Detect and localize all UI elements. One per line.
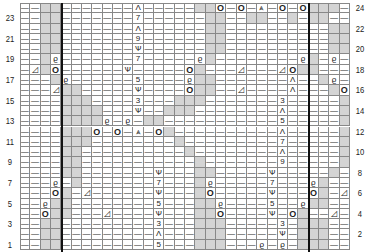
purl-symbol: —: [154, 3, 164, 13]
purl-symbol: —: [309, 147, 319, 157]
no-stitch-cell: [309, 219, 319, 229]
purl-symbol: —: [185, 188, 195, 198]
purl-symbol: —: [113, 157, 123, 167]
no-stitch-cell: [206, 24, 216, 34]
purl-symbol: —: [175, 240, 185, 250]
purl-symbol: —: [195, 127, 205, 137]
psso-symbol: Ѱ: [133, 85, 143, 95]
purl-symbol: —: [247, 75, 257, 85]
purl-symbol: —: [237, 219, 247, 229]
no-stitch-cell: [51, 199, 61, 209]
row-number-right: 6: [353, 188, 367, 198]
purl-symbol: —: [237, 54, 247, 64]
psso-symbol: Ѱ: [268, 188, 278, 198]
purl-symbol: —: [329, 157, 339, 167]
psso-symbol: Ѱ: [154, 209, 164, 219]
purl-symbol: —: [288, 240, 298, 250]
no-stitch-cell: [51, 3, 61, 13]
purl-symbol: —: [92, 178, 102, 188]
purl-symbol: —: [237, 147, 247, 157]
purl-symbol: —: [185, 178, 195, 188]
purl-symbol: —: [278, 209, 288, 219]
purl-symbol: —: [288, 229, 298, 239]
twisted-stitch-symbol: ϱ: [206, 178, 216, 188]
row-number-left: 15: [3, 96, 17, 106]
purl-symbol: —: [103, 137, 113, 147]
purl-symbol: —: [257, 219, 267, 229]
purl-symbol: —: [41, 75, 51, 85]
purl-symbol: —: [226, 24, 236, 34]
purl-symbol: —: [309, 85, 319, 95]
purl-symbol: —: [113, 44, 123, 54]
purl-symbol: —: [133, 199, 143, 209]
increase-symbol: Λ: [133, 24, 143, 34]
purl-symbol: —: [319, 137, 329, 147]
no-stitch-cell: [175, 96, 185, 106]
purl-symbol: —: [144, 13, 154, 23]
purl-symbol: —: [216, 157, 226, 167]
purl-symbol: —: [133, 240, 143, 250]
row-number-left: 23: [3, 13, 17, 23]
yarn-over-symbol: O: [206, 188, 216, 198]
no-stitch-cell: [51, 240, 61, 250]
purl-symbol: —: [123, 240, 133, 250]
purl-symbol: —: [340, 3, 350, 13]
purl-symbol: —: [247, 178, 257, 188]
purl-symbol: —: [103, 96, 113, 106]
purl-symbol: —: [92, 85, 102, 95]
row-number-right: 2: [353, 229, 367, 239]
purl-symbol: —: [288, 116, 298, 126]
purl-symbol: —: [175, 209, 185, 219]
purl-symbol: —: [72, 13, 82, 23]
row-number-right: 8: [353, 168, 367, 178]
purl-symbol: —: [340, 240, 350, 250]
no-stitch-cell: [329, 44, 339, 54]
purl-symbol: —: [41, 127, 51, 137]
psso-symbol: Ѱ: [268, 168, 278, 178]
purl-symbol: —: [144, 54, 154, 64]
purl-symbol: —: [278, 75, 288, 85]
purl-symbol: —: [30, 127, 40, 137]
purl-symbol: —: [206, 147, 216, 157]
purl-symbol: —: [268, 157, 278, 167]
yarn-over-symbol: O: [309, 188, 319, 198]
no-stitch-cell: [195, 157, 205, 167]
psso-symbol: Ѱ: [154, 188, 164, 198]
knitting-chart-grid: —————————Λ—————O—O—⩓—O—O——————————7—————…: [20, 3, 350, 250]
purl-symbol: —: [164, 229, 174, 239]
purl-symbol: —: [216, 137, 226, 147]
purl-symbol: —: [164, 240, 174, 250]
purl-symbol: —: [144, 178, 154, 188]
purl-symbol: —: [144, 3, 154, 13]
purl-symbol: —: [288, 3, 298, 13]
purl-symbol: —: [20, 96, 30, 106]
purl-symbol: —: [237, 24, 247, 34]
purl-symbol: —: [51, 106, 61, 116]
no-stitch-cell: [92, 116, 102, 126]
purl-symbol: —: [92, 209, 102, 219]
purl-symbol: —: [185, 34, 195, 44]
purl-symbol: —: [185, 229, 195, 239]
purl-symbol: —: [30, 75, 40, 85]
purl-symbol: —: [164, 44, 174, 54]
purl-symbol: —: [123, 85, 133, 95]
twisted-stitch-symbol: ϱ: [51, 54, 61, 64]
purl-symbol: —: [144, 65, 154, 75]
purl-symbol: —: [288, 54, 298, 64]
purl-symbol: —: [30, 240, 40, 250]
purl-symbol: —: [340, 168, 350, 178]
no-stitch-cell: [41, 65, 51, 75]
row-number-left: 9: [3, 157, 17, 167]
purl-symbol: —: [288, 127, 298, 137]
purl-symbol: —: [288, 199, 298, 209]
no-stitch-cell: [41, 3, 51, 13]
purl-symbol: —: [329, 240, 339, 250]
twisted-stitch-symbol: ϱ: [103, 116, 113, 126]
purl-symbol: —: [226, 229, 236, 239]
purl-symbol: —: [20, 34, 30, 44]
purl-symbol: —: [309, 137, 319, 147]
yarn-over-symbol: O: [154, 127, 164, 137]
purl-symbol: —: [226, 127, 236, 137]
purl-symbol: —: [103, 85, 113, 95]
purl-symbol: —: [82, 3, 92, 13]
